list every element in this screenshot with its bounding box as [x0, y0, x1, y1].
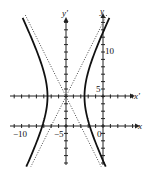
tick-label-x-neg10: −10 [13, 129, 28, 139]
x-prime-axis-label: x' [133, 91, 141, 101]
tick-label-x-neg5: −5 [54, 129, 64, 139]
left-branch [23, 18, 48, 167]
tick-label-x-0: 0 [97, 129, 102, 139]
axis-ticks [14, 22, 132, 163]
tick-label-y-10: 10 [105, 46, 115, 56]
hyperbola-diagram: x y x' y' −10 −5 0 5 10 [0, 0, 145, 171]
x-axis-label: x [137, 121, 142, 131]
y-prime-axis-label: y' [61, 8, 69, 18]
y-prime-axis [64, 17, 69, 165]
y-axis-label: y [99, 6, 104, 16]
tick-label-y-5: 5 [96, 84, 101, 94]
